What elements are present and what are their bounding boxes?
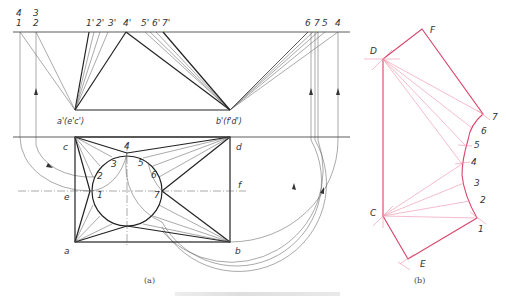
- label-point-2-b: 2: [480, 195, 486, 205]
- caption-a: (a): [144, 276, 155, 285]
- development-outline: [383, 29, 483, 259]
- label-3-top: 3: [33, 8, 39, 18]
- label-E: E: [420, 259, 426, 269]
- label-6-right: 6: [305, 18, 311, 28]
- arrow-down-icon: [292, 183, 296, 190]
- label-5-right: 5: [322, 18, 328, 28]
- label-point-3-b: 3: [474, 178, 480, 188]
- label-point-4: 4: [124, 141, 130, 151]
- label-a: a: [64, 246, 70, 256]
- arrow-down-icon: [46, 163, 53, 168]
- label-point-2: 2: [97, 171, 103, 181]
- technical-drawing: 4 1 3 2 1' 2' 3' 4' 5' 6' 7' 6 7 5 4 a'(…: [0, 0, 506, 298]
- label-point-7-b: 7: [492, 112, 498, 122]
- label-point-6: 6: [151, 170, 157, 180]
- label-F: F: [430, 25, 436, 35]
- label-b-prime: b'(f'd'): [216, 117, 242, 126]
- arrow-up-icon: [336, 88, 340, 95]
- label-point-6-b: 6: [481, 126, 487, 136]
- panel-b: D F C E 1 2 3 4 5 6 7 (b): [364, 25, 498, 285]
- label-point-1-b: 1: [478, 224, 484, 234]
- label-7-right: 7: [314, 18, 320, 28]
- label-point-5-b: 5: [474, 140, 480, 150]
- elevation-view: [20, 32, 338, 110]
- arrow-up-icon: [34, 88, 38, 95]
- caption-b: (b): [414, 276, 425, 285]
- label-e: e: [64, 192, 70, 202]
- label-point-7: 7: [154, 190, 160, 200]
- label-3-prime: 3': [108, 18, 116, 28]
- label-1-top: 1: [16, 18, 22, 28]
- label-7-prime: 7': [162, 18, 170, 28]
- label-point-5: 5: [138, 158, 144, 168]
- construction-lines-from-D: [383, 59, 483, 164]
- construction-lines-from-C: [383, 164, 477, 218]
- label-4-prime: 4': [123, 18, 131, 28]
- label-d: d: [236, 142, 242, 152]
- plan-view: [18, 137, 246, 246]
- label-a-prime: a'(e'c'): [57, 117, 84, 126]
- label-b: b: [235, 246, 241, 256]
- label-5-prime: 5': [141, 18, 149, 28]
- label-1-prime: 1': [86, 18, 94, 28]
- label-6-prime: 6': [152, 18, 160, 28]
- arrow-up-icon: [320, 187, 324, 194]
- label-4-right: 4: [335, 18, 341, 28]
- label-point-3: 3: [111, 159, 117, 169]
- label-C: C: [370, 208, 377, 218]
- cut-off-figure-caption: [175, 292, 340, 296]
- panel-a: 4 1 3 2 1' 2' 3' 4' 5' 6' 7' 6 7 5 4 a'(…: [13, 8, 350, 285]
- label-point-1: 1: [97, 190, 103, 200]
- arrow-up-icon: [309, 88, 313, 95]
- label-D: D: [370, 46, 377, 56]
- label-4-top: 4: [16, 8, 22, 18]
- label-c: c: [63, 142, 68, 152]
- label-2-top: 2: [33, 18, 39, 28]
- label-point-4-b: 4: [471, 157, 477, 167]
- label-2-prime: 2': [96, 18, 104, 28]
- label-f: f: [238, 180, 243, 190]
